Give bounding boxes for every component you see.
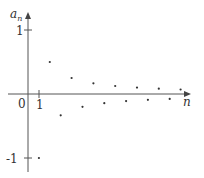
y-tick-label-1: 1 bbox=[16, 24, 24, 38]
y-tick-label-neg1: -1 bbox=[6, 152, 18, 166]
data-point bbox=[169, 98, 171, 100]
data-point bbox=[147, 99, 149, 101]
x-tick-label-1: 1 bbox=[36, 98, 44, 112]
data-point bbox=[136, 87, 138, 89]
data-point bbox=[125, 100, 127, 102]
data-point bbox=[92, 82, 94, 84]
data-point bbox=[38, 157, 40, 159]
data-point bbox=[49, 61, 51, 63]
data-point bbox=[103, 102, 105, 104]
data-point bbox=[158, 88, 160, 90]
data-points bbox=[38, 61, 182, 159]
data-point bbox=[71, 77, 73, 79]
x-axis-label: n bbox=[183, 95, 191, 109]
data-point bbox=[81, 106, 83, 108]
data-point bbox=[60, 114, 62, 116]
sequence-plot: an n 1 -1 0 1 bbox=[0, 0, 204, 178]
data-point bbox=[180, 88, 182, 90]
data-point bbox=[114, 85, 116, 87]
y-axis-arrow-icon bbox=[25, 12, 31, 19]
plot-canvas: an n 1 -1 0 1 bbox=[0, 0, 204, 178]
origin-label: 0 bbox=[18, 97, 26, 111]
y-axis-label: an bbox=[10, 7, 22, 23]
